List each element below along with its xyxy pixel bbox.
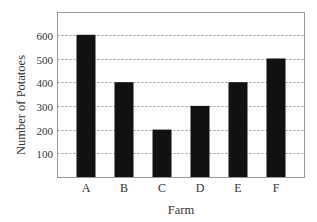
x-category-label: F <box>273 181 280 195</box>
x-category-labels: ABCDEF <box>82 181 280 195</box>
x-category-label: C <box>158 181 166 195</box>
y-tick-label: 200 <box>37 125 54 137</box>
y-tick-labels: 100200300400500600 <box>37 30 54 160</box>
y-tick-label: 500 <box>37 54 54 66</box>
y-tick-label: 600 <box>37 30 54 42</box>
bar-f <box>267 59 286 178</box>
bar-b <box>115 82 134 177</box>
x-category-label: B <box>120 181 128 195</box>
x-axis-label: Farm <box>168 203 195 217</box>
x-category-label: E <box>234 181 241 195</box>
y-axis-label: Number of Potatoes <box>14 55 28 155</box>
bar-a <box>77 35 96 177</box>
bar-e <box>229 82 248 177</box>
y-tick-label: 300 <box>37 101 54 113</box>
y-tick-label: 100 <box>37 148 54 160</box>
x-category-label: A <box>82 181 91 195</box>
bar-c <box>153 130 172 177</box>
bar-chart: 100200300400500600 ABCDEF Farm Number of… <box>0 0 317 222</box>
bar-d <box>191 106 210 177</box>
bars <box>77 35 286 177</box>
y-tick-label: 400 <box>37 77 54 89</box>
x-category-label: D <box>196 181 205 195</box>
